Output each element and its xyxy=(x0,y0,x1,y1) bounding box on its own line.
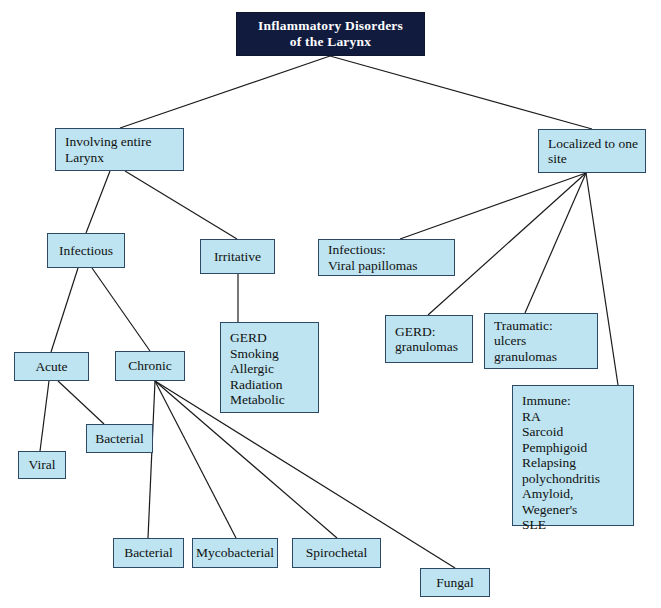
node-label: Infectious: Viral papillomas xyxy=(328,242,418,273)
node-involving-entire-larynx: Involving entire Larynx xyxy=(55,128,184,171)
node-chronic-spirochetal: Spirochetal xyxy=(292,538,381,568)
node-label: Infectious xyxy=(59,243,113,259)
node-irritative-causes: GERD Smoking Allergic Radiation Metaboli… xyxy=(220,322,319,413)
node-traumatic-ulcers-granulomas: Traumatic: ulcers granulomas xyxy=(484,313,598,369)
node-root-inflammatory-disorders-of-the-larynx: Inflammatory Disorders of the Larynx xyxy=(236,12,425,56)
node-label: Mycobacterial xyxy=(196,545,274,561)
node-immune-causes: Immune: RA Sarcoid Pemphigoid Relapsing … xyxy=(512,385,634,526)
edge-root-to-involving-entire-larynx xyxy=(120,56,330,128)
edge-localized-to-one-site-to-traumatic-ulcers-granulomas xyxy=(525,173,586,313)
node-acute-viral: Viral xyxy=(18,451,66,479)
node-label: Immune: RA Sarcoid Pemphigoid Relapsing … xyxy=(522,393,600,533)
node-irritative: Irritative xyxy=(200,239,275,274)
node-chronic-mycobacterial: Mycobacterial xyxy=(192,538,278,568)
node-chronic: Chronic xyxy=(115,351,185,381)
node-label: GERD: granulomas xyxy=(395,324,458,355)
node-label: Involving entire Larynx xyxy=(65,134,152,165)
edge-localized-to-one-site-to-infectious-viral-papillomas xyxy=(400,173,586,239)
edge-root-to-localized-to-one-site xyxy=(330,56,592,129)
node-label: Bacterial xyxy=(95,431,144,447)
node-label: Spirochetal xyxy=(306,545,367,561)
node-label: GERD Smoking Allergic Radiation Metaboli… xyxy=(230,330,285,408)
node-label: Traumatic: ulcers granulomas xyxy=(494,318,557,365)
edge-chronic-to-chronic-bacterial xyxy=(148,381,155,538)
node-label: Viral xyxy=(29,457,56,473)
node-chronic-bacterial: Bacterial xyxy=(113,538,184,568)
node-acute-bacterial: Bacterial xyxy=(86,424,153,453)
node-label: Irritative xyxy=(214,249,261,265)
edge-infectious-to-acute xyxy=(51,268,78,352)
edge-acute-to-acute-bacterial xyxy=(58,381,104,424)
node-chronic-fungal: Fungal xyxy=(420,568,490,597)
edge-infectious-to-chronic xyxy=(92,268,150,351)
node-infectious: Infectious xyxy=(47,233,125,268)
edge-involving-entire-larynx-to-infectious xyxy=(86,171,110,233)
node-label: Chronic xyxy=(128,358,172,374)
node-acute: Acute xyxy=(14,352,89,381)
diagram-canvas: Inflammatory Disorders of the Larynx Inv… xyxy=(0,0,661,608)
node-label: Acute xyxy=(35,359,67,375)
node-gerd-granulomas: GERD: granulomas xyxy=(385,315,473,363)
node-label: Bacterial xyxy=(124,545,173,561)
node-label: Fungal xyxy=(436,575,474,591)
node-label: Localized to one site xyxy=(548,136,638,167)
edge-acute-to-acute-viral xyxy=(40,381,49,451)
node-localized-to-one-site: Localized to one site xyxy=(538,129,646,173)
edge-involving-entire-larynx-to-irritative xyxy=(125,171,237,239)
node-infectious-viral-papillomas: Infectious: Viral papillomas xyxy=(318,239,455,276)
node-label: Inflammatory Disorders of the Larynx xyxy=(258,18,403,50)
